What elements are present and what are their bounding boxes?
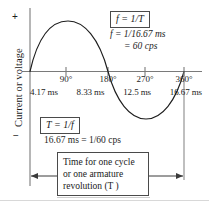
y-axis-positive-sign: + (12, 12, 18, 22)
y-axis-title: Current or voltage (13, 43, 24, 133)
x-time-label-90: 4.17 ms (30, 87, 58, 97)
x-tick-label-90: 90° (46, 75, 86, 84)
footer-rule (0, 200, 209, 201)
x-axis-time-labels: 4.17 ms 8.33 ms 12.5 ms 16.67 ms (30, 87, 202, 97)
span-arrowhead-right (176, 173, 183, 179)
footer-rule-inner (57, 197, 150, 198)
cycle-caption-box: Time for one cycle or one armature revol… (57, 152, 149, 196)
x-tick-label-270: 270° (125, 75, 165, 84)
frequency-calculation-line-1: f = 1/16.67 ms (110, 30, 166, 40)
frequency-formula-box: f = 1/T (110, 11, 150, 28)
period-calculation-line-1: 16.67 ms = 1/60 cps (44, 136, 121, 146)
y-axis-negative-sign: − (13, 131, 19, 141)
x-tick-label-360: 360° (164, 75, 204, 84)
caption-line-1: Time for one cycle (63, 156, 144, 168)
x-time-label-360: 16.67 ms (170, 87, 202, 97)
frequency-calculation-line-2: = 60 cps (124, 42, 157, 52)
x-time-label-270: 12.5 ms (123, 87, 151, 97)
span-arrowhead-left (31, 173, 38, 179)
figure-container: + − Current or voltage 90° 180° 270° 360… (0, 0, 209, 205)
x-time-label-180: 8.33 ms (77, 87, 105, 97)
caption-line-3: revolution (T ) (63, 180, 144, 192)
caption-line-2: or one armature (63, 168, 144, 180)
x-tick-label-180: 180° (88, 75, 128, 84)
period-formula-box: T = 1/f (40, 117, 80, 134)
